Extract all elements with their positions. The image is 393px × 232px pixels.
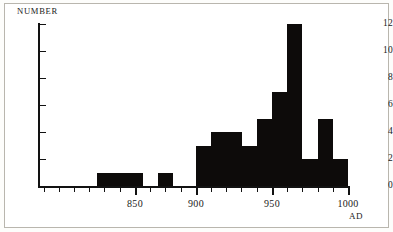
bar xyxy=(211,132,226,186)
bar xyxy=(242,146,257,187)
chart-figure: NUMBER AD 0 2 4 6 8 10 12 xyxy=(0,0,393,232)
bar xyxy=(128,173,143,187)
bar xyxy=(287,24,302,186)
plot-area: NUMBER AD 0 2 4 6 8 10 12 xyxy=(0,0,393,232)
bars-group xyxy=(0,0,393,232)
bar xyxy=(302,159,317,186)
bar xyxy=(226,132,241,186)
bar xyxy=(158,173,173,187)
bar xyxy=(257,119,272,187)
bar xyxy=(112,173,127,187)
bar xyxy=(318,119,333,187)
bar xyxy=(97,173,112,187)
bar xyxy=(272,92,287,187)
bar xyxy=(196,146,211,187)
bar xyxy=(333,159,348,186)
